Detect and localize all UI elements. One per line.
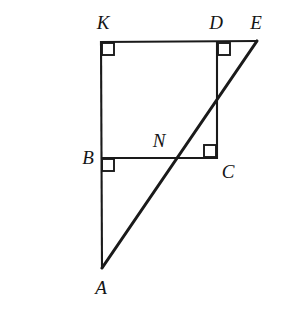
segment-group bbox=[100, 41, 258, 269]
right-angle-marker-B bbox=[102, 159, 114, 171]
vertex-label-K: K bbox=[97, 13, 110, 32]
segment-KA bbox=[101, 41, 102, 269]
vertex-label-D: D bbox=[209, 13, 223, 32]
right-angle-marker-D bbox=[218, 43, 230, 55]
figure-canvas bbox=[0, 0, 282, 322]
vertex-label-B: B bbox=[82, 148, 94, 167]
vertex-label-C: C bbox=[222, 162, 235, 181]
vertex-label-N: N bbox=[153, 131, 166, 150]
right-angle-marker-K bbox=[102, 43, 114, 55]
geometry-figure: K D E B N C A bbox=[0, 0, 282, 322]
vertex-label-E: E bbox=[250, 13, 262, 32]
right-angle-marker-C bbox=[204, 145, 216, 157]
vertex-label-A: A bbox=[95, 278, 107, 297]
segment-KE bbox=[100, 41, 258, 42]
segment-AE bbox=[102, 41, 257, 268]
